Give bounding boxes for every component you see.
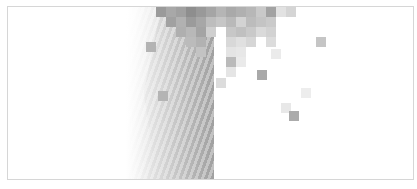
pixel-block [206, 27, 216, 37]
pixel-block [226, 17, 236, 27]
pixel-block [226, 7, 236, 17]
pixel-block [246, 27, 256, 37]
pixel-block [266, 17, 276, 27]
pixel-block [286, 7, 296, 17]
pixel-block [206, 7, 216, 17]
pixel-block [186, 7, 196, 17]
pixel-block [166, 17, 176, 27]
pixel-block [206, 17, 216, 27]
pixel-block [156, 7, 166, 17]
pixel-block [196, 17, 206, 27]
pixel-block [246, 37, 256, 47]
pixel-block [257, 70, 267, 80]
image-canvas [7, 6, 414, 180]
pixel-block [236, 17, 246, 27]
pixel-block [246, 7, 256, 17]
pixel-block [216, 78, 226, 88]
pixel-block [256, 7, 266, 17]
pixel-block [226, 57, 236, 67]
pixel-block [176, 17, 186, 27]
pixel-block [186, 37, 196, 47]
pixel-block [158, 91, 168, 101]
pixel-block [266, 7, 276, 17]
pixel-block [266, 27, 276, 37]
pixel-block [226, 47, 236, 57]
pixel-block [176, 7, 186, 17]
pixel-block [256, 17, 266, 27]
pixel-block [196, 37, 206, 47]
pixel-block [226, 67, 236, 77]
pixel-block [166, 7, 176, 17]
pixel-block [226, 37, 236, 47]
pixel-block [236, 47, 246, 57]
pixel-block [236, 57, 246, 67]
pixel-block [289, 111, 299, 121]
pixel-block [256, 27, 266, 37]
pixel-block [236, 7, 246, 17]
pixel-block [316, 37, 326, 47]
pixel-block [276, 7, 286, 17]
pixel-block [176, 27, 186, 37]
pixel-block [196, 27, 206, 37]
pixel-block [196, 7, 206, 17]
pixel-block [186, 17, 196, 27]
pixel-block [266, 37, 276, 47]
pixel-block [186, 27, 196, 37]
pixel-block [236, 37, 246, 47]
pixel-block [196, 47, 206, 57]
pixel-block [246, 17, 256, 27]
pixel-block [216, 7, 226, 17]
pixel-block [236, 27, 246, 37]
pixel-block [301, 88, 311, 98]
pixel-block [146, 42, 156, 52]
pixel-block [271, 49, 281, 59]
pixel-block [226, 27, 236, 37]
pixel-block [216, 17, 226, 27]
